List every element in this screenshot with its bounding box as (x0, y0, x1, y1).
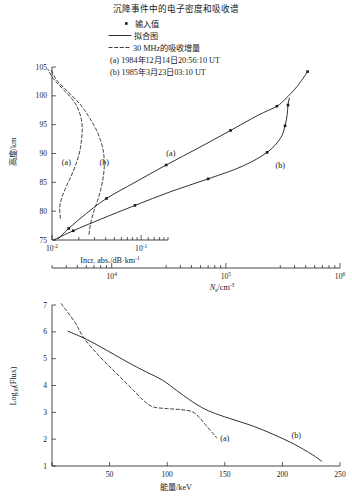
lower-y-tick-label: 3 (43, 408, 47, 417)
upper-series-density (58, 72, 307, 239)
upper-y-tick-label: 105 (36, 63, 48, 72)
lower-y-tick-label: 2 (43, 435, 47, 444)
lower-x-tick-label: 150 (219, 470, 231, 479)
figure-svg: 沉降事件中的电子密度和吸收谱输入值拟合图30 MHz的吸收增量(a) 1984年… (0, 0, 352, 500)
lower-x-tick-label: 100 (162, 470, 174, 479)
legend-dashed-label: 30 MHz的吸收增量 (133, 43, 200, 53)
lower-y-tick-label: 4 (43, 381, 47, 390)
upper-data-point (165, 164, 168, 167)
upper-series-absorption (48, 69, 82, 218)
upper-abs-x-tick-label: 10-1 (135, 243, 147, 253)
lower-y-tick-label: 6 (43, 327, 47, 336)
figure-container: 沉降事件中的电子密度和吸收谱输入值拟合图30 MHz的吸收增量(a) 1984年… (0, 0, 352, 500)
lower-panel: 1234567Log10(Flux)50100150200250能量/keV(a… (9, 301, 346, 492)
figure-title: 沉降事件中的电子密度和吸收谱 (113, 3, 239, 14)
upper-data-point (105, 197, 108, 200)
lower-y-axis-label: Log10(Flux) (9, 366, 19, 405)
upper-curve-label: (a) (62, 158, 71, 167)
upper-data-point (229, 129, 232, 132)
upper-data-point (207, 178, 210, 181)
lower-x-tick-label: 50 (106, 470, 114, 479)
lower-y-tick-label: 5 (43, 354, 47, 363)
upper-series-absorption (51, 70, 104, 234)
lower-y-tick-label: 1 (43, 462, 47, 471)
upper-data-point (306, 70, 309, 73)
legend-marker-symbol (125, 22, 128, 25)
upper-data-point (72, 229, 75, 232)
legend-note-b: (b) 1985年3月23日03:10 UT (110, 67, 206, 77)
upper-curve-label: (a) (166, 149, 175, 158)
upper-panel: 7580859095100105高度/km10-210-1Incr. abs./… (8, 63, 345, 294)
upper-y-tick-label: 100 (36, 91, 48, 100)
lower-series-a (61, 304, 217, 438)
legend-solid-label: 拟合图 (134, 31, 158, 41)
lower-x-tick-label: 250 (334, 470, 346, 479)
upper-ne-x-tick-label: 104 (107, 271, 118, 281)
legend-note-a: (a) 1984年12月14日20:56:10 UT (110, 55, 220, 65)
lower-y-tick-label: 7 (43, 301, 47, 310)
legend-marker-label: 输入值 (135, 19, 159, 29)
upper-ne-x-axis-label: Ne/cm-3 (209, 282, 235, 294)
upper-y-tick-label: 85 (39, 178, 47, 187)
lower-x-axis-label: 能量/keV (160, 482, 192, 492)
upper-data-point (287, 104, 290, 107)
upper-series-density (54, 98, 290, 240)
lower-x-tick-label: 200 (277, 470, 289, 479)
upper-data-point (266, 151, 269, 154)
lower-curve-label: (b) (291, 431, 301, 440)
upper-curve-label: (b) (99, 158, 109, 167)
upper-abs-x-tick-label: 10-2 (46, 243, 58, 253)
legend: 输入值拟合图30 MHz的吸收增量(a) 1984年12月14日20:56:10… (109, 19, 220, 77)
upper-y-axis-label: 高度/km (8, 137, 18, 166)
upper-y-tick-label: 90 (39, 149, 47, 158)
upper-data-point (67, 227, 70, 230)
upper-y-tick-label: 95 (39, 120, 47, 129)
figure-header: 沉降事件中的电子密度和吸收谱 (113, 3, 239, 14)
upper-ne-x-tick-label: 106 (335, 271, 346, 281)
upper-data-point (134, 204, 137, 207)
lower-series-b (68, 331, 321, 461)
lower-curve-label: (a) (220, 434, 229, 443)
upper-curve-label: (b) (276, 161, 286, 170)
upper-y-tick-label: 80 (39, 207, 47, 216)
upper-data-point (276, 105, 279, 108)
upper-ne-x-tick-label: 105 (221, 271, 232, 281)
upper-abs-x-axis-label: Incr. abs./dB·km-1 (80, 255, 140, 265)
upper-data-point (284, 125, 287, 128)
